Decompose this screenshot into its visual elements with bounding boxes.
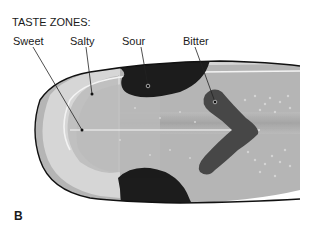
panel-label: B <box>14 210 23 222</box>
tongue-body <box>0 50 314 220</box>
tongue-illustration <box>0 0 314 234</box>
label-sweet: Sweet <box>13 36 44 47</box>
taste-zones-diagram: TASTE ZONES: Sweet Salty Sour Bitter B <box>0 0 314 234</box>
label-sour: Sour <box>122 36 145 47</box>
label-bitter: Bitter <box>183 36 209 47</box>
figure-title: TASTE ZONES: <box>12 17 91 28</box>
label-salty: Salty <box>70 36 94 47</box>
